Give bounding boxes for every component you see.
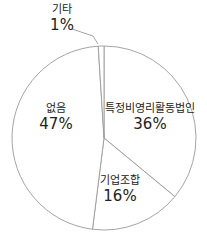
label-other-name: 기타 xyxy=(50,4,74,17)
label-cooperative-name: 기업조합 xyxy=(100,175,140,188)
label-other-pct: 1% xyxy=(50,17,74,34)
label-cooperative: 기업조합 16% xyxy=(100,175,140,205)
label-none-name: 없음 xyxy=(39,103,72,116)
label-cooperative-pct: 16% xyxy=(100,188,140,205)
leader-line-other xyxy=(72,29,98,44)
label-none-pct: 47% xyxy=(39,116,72,133)
label-none: 없음 47% xyxy=(39,103,72,133)
label-npo: 특정비영리활동법인 36% xyxy=(105,103,195,133)
label-npo-name: 특정비영리활동법인 xyxy=(105,103,195,116)
label-npo-pct: 36% xyxy=(105,116,195,133)
pie-slice-2 xyxy=(12,46,104,229)
label-other: 기타 1% xyxy=(50,4,74,34)
